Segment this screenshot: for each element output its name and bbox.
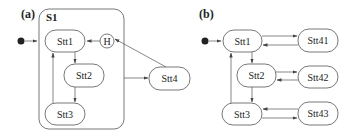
state-stt3-label: Stt3 (234, 109, 250, 120)
state-stt2-label: Stt2 (76, 70, 92, 81)
state-stt3-label: Stt3 (57, 109, 73, 120)
state-stt2-label: Stt2 (248, 70, 264, 81)
state-stt41-label: Stt41 (307, 35, 328, 46)
state-stt1-label: Stt1 (57, 36, 73, 47)
panel-a: (a) S1 Stt1 H Stt2 Stt3 (18, 7, 191, 129)
state-stt2: Stt2 (237, 64, 276, 87)
panel-a-label: (a) (21, 7, 35, 21)
history-state: H (100, 34, 114, 48)
state-stt3: Stt3 (222, 103, 262, 125)
state-stt4: Stt4 (149, 67, 190, 90)
state-stt1: Stt1 (223, 30, 262, 52)
composite-state-s1-label: S1 (46, 11, 58, 23)
initial-state-dot (18, 38, 25, 45)
initial-state-dot (202, 38, 209, 45)
state-stt41: Stt41 (298, 29, 338, 52)
state-stt42: Stt42 (298, 66, 338, 88)
state-stt1: Stt1 (45, 30, 85, 52)
history-state-label: H (103, 36, 110, 47)
state-stt42-label: Stt42 (307, 72, 328, 83)
state-stt3: Stt3 (45, 103, 85, 125)
state-stt2: Stt2 (64, 64, 104, 87)
statechart-diagram: (a) S1 Stt1 H Stt2 Stt3 (0, 0, 355, 136)
state-stt43: Stt43 (298, 102, 338, 125)
state-stt1-label: Stt1 (234, 36, 250, 47)
state-stt43-label: Stt43 (307, 108, 328, 119)
panel-b-label: (b) (199, 7, 214, 21)
panel-b: (b) Stt1 Stt2 Stt3 Stt41 Stt42 (199, 7, 338, 125)
state-stt4-label: Stt4 (161, 73, 177, 84)
